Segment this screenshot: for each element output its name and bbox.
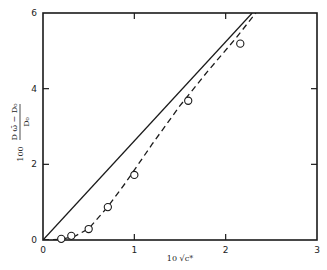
x-tick-label: 3	[314, 245, 320, 255]
y-tick-label: 4	[31, 84, 37, 94]
data-points	[58, 40, 244, 242]
y-label-numerator: D ω̄ − D₀	[10, 104, 19, 141]
x-tick-label: 1	[131, 245, 137, 255]
x-axis-label: 10 √c*	[167, 254, 193, 263]
series-lines	[43, 13, 256, 240]
y-tick-label: 0	[31, 235, 37, 245]
data-point	[58, 235, 65, 242]
plot-frame	[43, 13, 317, 240]
axis-ticks	[43, 13, 317, 240]
x-tick-label: 2	[223, 245, 229, 255]
plot-border	[43, 13, 317, 240]
data-point	[85, 225, 92, 232]
x-tick-label: 0	[40, 245, 46, 255]
data-point	[104, 203, 111, 210]
y-label-prefix: 100	[16, 146, 25, 161]
limiting-law-line	[43, 13, 252, 240]
data-point	[68, 232, 75, 239]
y-axis-label: 100D ω̄ − D₀D₀	[10, 104, 31, 162]
chart: 0123024610 √c*100D ω̄ − D₀D₀	[0, 0, 327, 270]
data-point	[185, 97, 192, 104]
y-tick-label: 2	[31, 159, 37, 169]
y-tick-label: 6	[31, 8, 37, 18]
data-point	[131, 171, 138, 178]
y-label-denominator: D₀	[22, 117, 31, 127]
data-point	[237, 40, 244, 47]
